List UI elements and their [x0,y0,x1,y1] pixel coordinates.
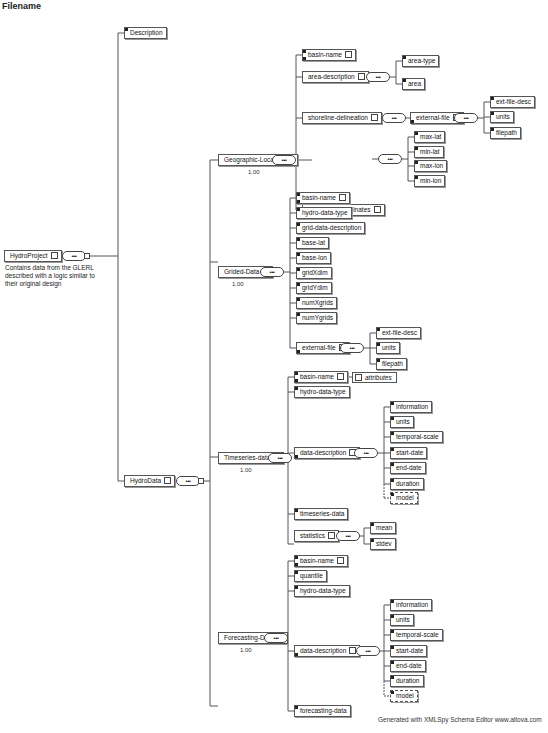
expand-icon[interactable] [358,73,365,80]
element-description[interactable]: Description [124,27,167,39]
sequence-icon: ••• [454,113,478,123]
element-timeseries-data-leaf[interactable]: timeseries-data [294,508,348,520]
connector-lines [0,0,548,733]
element-end-date[interactable]: end-date [390,462,426,474]
element-information[interactable]: information [390,599,432,611]
sequence-icon: ••• [336,531,360,541]
page-title: Filename [2,1,41,11]
expand-icon[interactable] [371,114,378,121]
element-model-optional[interactable]: model [390,492,418,504]
connector-square-icon [84,253,90,259]
element-area[interactable]: area [402,78,425,90]
element-grid-data-description[interactable]: grid-data-description [296,222,365,234]
expand-icon[interactable] [337,557,344,564]
element-units[interactable]: units [376,342,400,354]
sequence-icon: ••• [62,251,86,261]
sequence-icon: ••• [356,646,380,656]
element-numygrids[interactable]: numYgrids [296,312,337,324]
expand-icon[interactable] [164,477,171,484]
root-label: HydroProject [10,252,48,259]
schema-diagram: Filename HydroProject Contains data from… [0,0,548,733]
element-hydrodata[interactable]: HydroData [124,475,175,487]
element-stdev[interactable]: stdev [370,538,396,550]
sequence-icon: ••• [264,633,288,643]
element-area-type[interactable]: area-type [402,55,439,67]
element-base-lon[interactable]: base-lon [296,252,331,264]
element-ext-file-desc[interactable]: ext-file-desc [490,96,535,108]
element-min-lat[interactable]: min-lat [414,146,444,158]
element-data-description[interactable]: data-description [294,645,360,657]
element-mean[interactable]: mean [370,522,396,534]
attributes-box[interactable]: attributes [352,372,397,383]
element-duration[interactable]: duration [390,675,424,687]
element-units[interactable]: units [390,416,414,428]
element-ext-file-desc[interactable]: ext-file-desc [376,327,421,339]
element-temporal-scale[interactable]: temporal-scale [390,629,443,641]
element-hydro-data-type[interactable]: hydro-data-type [296,207,352,219]
attributes-icon [355,374,362,381]
sequence-icon: ••• [382,113,406,123]
expand-icon[interactable] [374,206,381,213]
sequence-icon: ••• [366,72,390,82]
element-data-description[interactable]: data-description [294,447,360,459]
cardinality-label: 1.00 [240,467,252,473]
expand-icon[interactable] [51,252,58,259]
element-end-date[interactable]: end-date [390,660,426,672]
element-max-lat[interactable]: max-lat [414,131,445,143]
expand-icon[interactable] [339,194,346,201]
element-min-lon[interactable]: min-lon [414,175,445,187]
element-start-date[interactable]: start-date [390,645,427,657]
element-area-description[interactable]: area-description [302,71,369,83]
element-basin-name[interactable]: basin-name [296,192,350,204]
element-hydro-data-type[interactable]: hydro-data-type [294,386,350,398]
element-start-date[interactable]: start-date [390,447,427,459]
expand-icon[interactable] [328,532,335,539]
connector-square-icon [198,478,204,484]
cardinality-label: 1.00 [240,647,252,653]
element-numxgrids[interactable]: numXgrids [296,297,337,309]
element-basin-name[interactable]: basin-name [294,555,348,567]
element-gridxdim[interactable]: gridXdim [296,267,332,279]
element-gridydim[interactable]: gridYdim [296,282,332,294]
root-element-hydroproject[interactable]: HydroProject [4,250,62,262]
element-basin-name[interactable]: basin-name [294,371,348,383]
element-model-optional[interactable]: model [390,690,418,702]
element-quantile[interactable]: quantile [294,570,327,582]
element-base-lat[interactable]: base-lat [296,237,329,249]
generator-footer: Generated with XMLSpy Schema Editor www.… [378,716,542,723]
element-filepath[interactable]: filepath [376,358,407,370]
element-basin-name[interactable]: basin-name [302,49,356,61]
element-max-lon[interactable]: max-lon [414,160,447,172]
element-statistics[interactable]: statistics [294,530,339,542]
expand-icon[interactable] [345,51,352,58]
sequence-icon: ••• [272,155,296,165]
element-marker-icon [125,28,128,31]
sequence-icon: ••• [260,267,284,277]
cardinality-label: 1.00 [232,281,244,287]
cardinality-label: 1.00 [248,169,260,175]
element-forecasting-data-leaf[interactable]: forecasting-data [294,705,351,717]
sequence-icon: ••• [268,453,292,463]
element-hydro-data-type[interactable]: hydro-data-type [294,585,350,597]
element-shoreline-delineation[interactable]: shoreline-delineation [302,112,382,124]
element-duration[interactable]: duration [390,478,424,490]
sequence-icon: ••• [378,154,402,164]
sequence-icon: ••• [340,343,364,353]
element-units[interactable]: units [490,111,514,123]
sequence-icon: ••• [354,448,378,458]
expand-icon[interactable] [337,373,344,380]
sequence-icon: ••• [176,476,200,486]
root-description: Contains data from the GLERL described w… [5,264,95,288]
element-units[interactable]: units [390,614,414,626]
element-filepath[interactable]: filepath [490,127,521,139]
element-temporal-scale[interactable]: temporal-scale [390,431,443,443]
element-information[interactable]: information [390,401,432,413]
